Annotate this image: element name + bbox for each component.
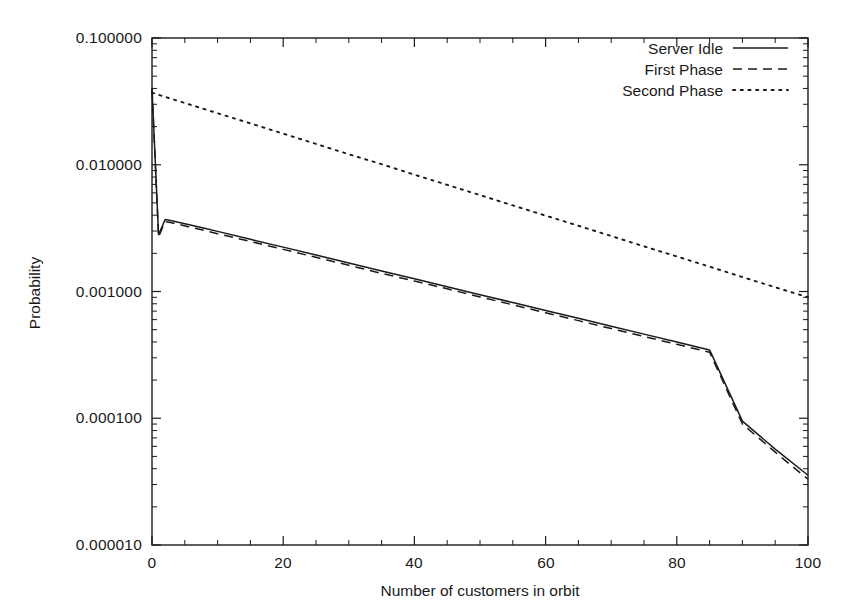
chart-figure: 0.100000 0.010000 0.001000 0.000100 0.00… xyxy=(0,0,863,616)
ytick-label-4: 0.000010 xyxy=(20,536,142,554)
axis-ticks xyxy=(152,38,808,545)
xtick-label-2: 40 xyxy=(405,554,423,572)
data-series-group xyxy=(152,88,808,479)
plot-canvas xyxy=(0,0,863,616)
ytick-label-3: 0.000100 xyxy=(20,409,142,427)
legend-line-samples xyxy=(733,48,788,90)
y-axis-title: Probability xyxy=(26,223,44,363)
plot-frame xyxy=(152,38,808,545)
xtick-label-1: 20 xyxy=(274,554,292,572)
series-line-first-phase xyxy=(152,89,808,479)
legend-label-server-idle: Server Idle xyxy=(523,40,723,58)
x-axis-title: Number of customers in orbit xyxy=(330,582,630,600)
xtick-label-4: 80 xyxy=(668,554,686,572)
xtick-label-5: 100 xyxy=(795,554,821,572)
series-line-server-idle xyxy=(152,88,808,475)
ytick-label-1: 0.010000 xyxy=(20,156,142,174)
xtick-label-0: 0 xyxy=(148,554,157,572)
series-line-second-phase xyxy=(152,93,808,298)
legend-label-second-phase: Second Phase xyxy=(523,82,723,100)
xtick-label-3: 60 xyxy=(537,554,555,572)
legend-label-first-phase: First Phase xyxy=(523,61,723,79)
ytick-label-0: 0.100000 xyxy=(20,29,142,47)
